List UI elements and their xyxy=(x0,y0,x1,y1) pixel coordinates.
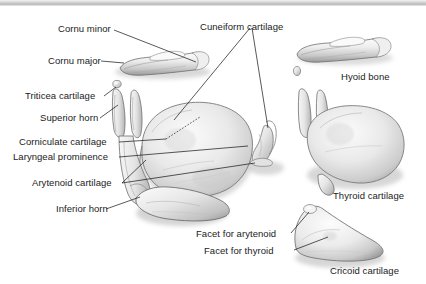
hyoid-bone-isolated xyxy=(293,37,393,75)
label-hyoid-bone: Hyoid bone xyxy=(341,71,390,82)
superior-horn-right xyxy=(130,90,142,138)
label-cornu-minor: Cornu minor xyxy=(58,23,111,34)
leader-cuneiform-b xyxy=(252,28,268,128)
facet-for-thyroid-dimple xyxy=(323,232,337,241)
superior-horn-left xyxy=(112,89,125,138)
label-cricoid-cartilage: Cricoid cartilage xyxy=(330,265,399,276)
cricoid-cartilage-isolated xyxy=(295,205,385,269)
arytenoid-body xyxy=(252,125,273,163)
triticea-nodule-isolated xyxy=(293,66,300,75)
label-thyroid-cartilage: Thyroid cartilage xyxy=(333,190,404,201)
label-triticea-cartilage: Triticea cartilage xyxy=(25,90,95,101)
label-cornu-major: Cornu major xyxy=(48,55,101,66)
label-inferior-horn: Inferior horn xyxy=(56,203,108,214)
label-corniculate-cartilage: Corniculate cartilage xyxy=(19,136,107,147)
arytenoid-cartilage-isolated xyxy=(248,121,284,175)
thyroid-cartilage-isolated xyxy=(298,89,404,195)
leader-cornu-major xyxy=(101,61,124,63)
label-facet-for-arytenoid: Facet for arytenoid xyxy=(196,228,276,239)
label-superior-horn: Superior horn xyxy=(40,112,98,123)
hyoid-bone-assembled xyxy=(115,51,211,79)
label-arytenoid-cartilage: Arytenoid cartilage xyxy=(32,177,112,188)
triticea-cartilage-nodule xyxy=(113,80,121,87)
label-facet-for-thyroid: Facet for thyroid xyxy=(204,245,274,256)
label-laryngeal-prominence: Laryngeal prominence xyxy=(13,151,108,162)
larynx-assembly-group xyxy=(112,51,252,226)
label-cuneiform-cartilage: Cuneiform cartilage xyxy=(200,21,283,32)
